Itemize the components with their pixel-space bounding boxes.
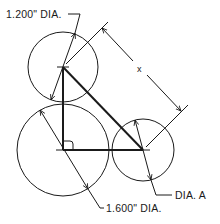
right-circle-label: DIA. A bbox=[175, 189, 206, 201]
technical-drawing: 1.200" DIA. 1.600" DIA. DIA. A x bbox=[0, 0, 220, 224]
bottom-circle-label: 1.600" DIA. bbox=[106, 202, 162, 214]
dimension-x-label: x bbox=[137, 64, 142, 74]
right-circle-diameter-dimension bbox=[135, 120, 172, 195]
x-extension-lines bbox=[66, 22, 188, 147]
center-triangle bbox=[63, 67, 143, 150]
right-angle-icon bbox=[63, 141, 73, 150]
top-circle-label: 1.200" DIA. bbox=[6, 8, 62, 20]
top-circle-diameter-dimension bbox=[51, 14, 80, 100]
x-dimension-line bbox=[102, 28, 181, 111]
bottom-circle-diameter-dimension bbox=[40, 110, 104, 208]
